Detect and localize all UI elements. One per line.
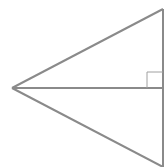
lower-side — [12, 88, 163, 167]
right-angle-marker — [147, 72, 163, 88]
triangle-diagram — [0, 0, 166, 167]
upper-side — [12, 9, 163, 88]
